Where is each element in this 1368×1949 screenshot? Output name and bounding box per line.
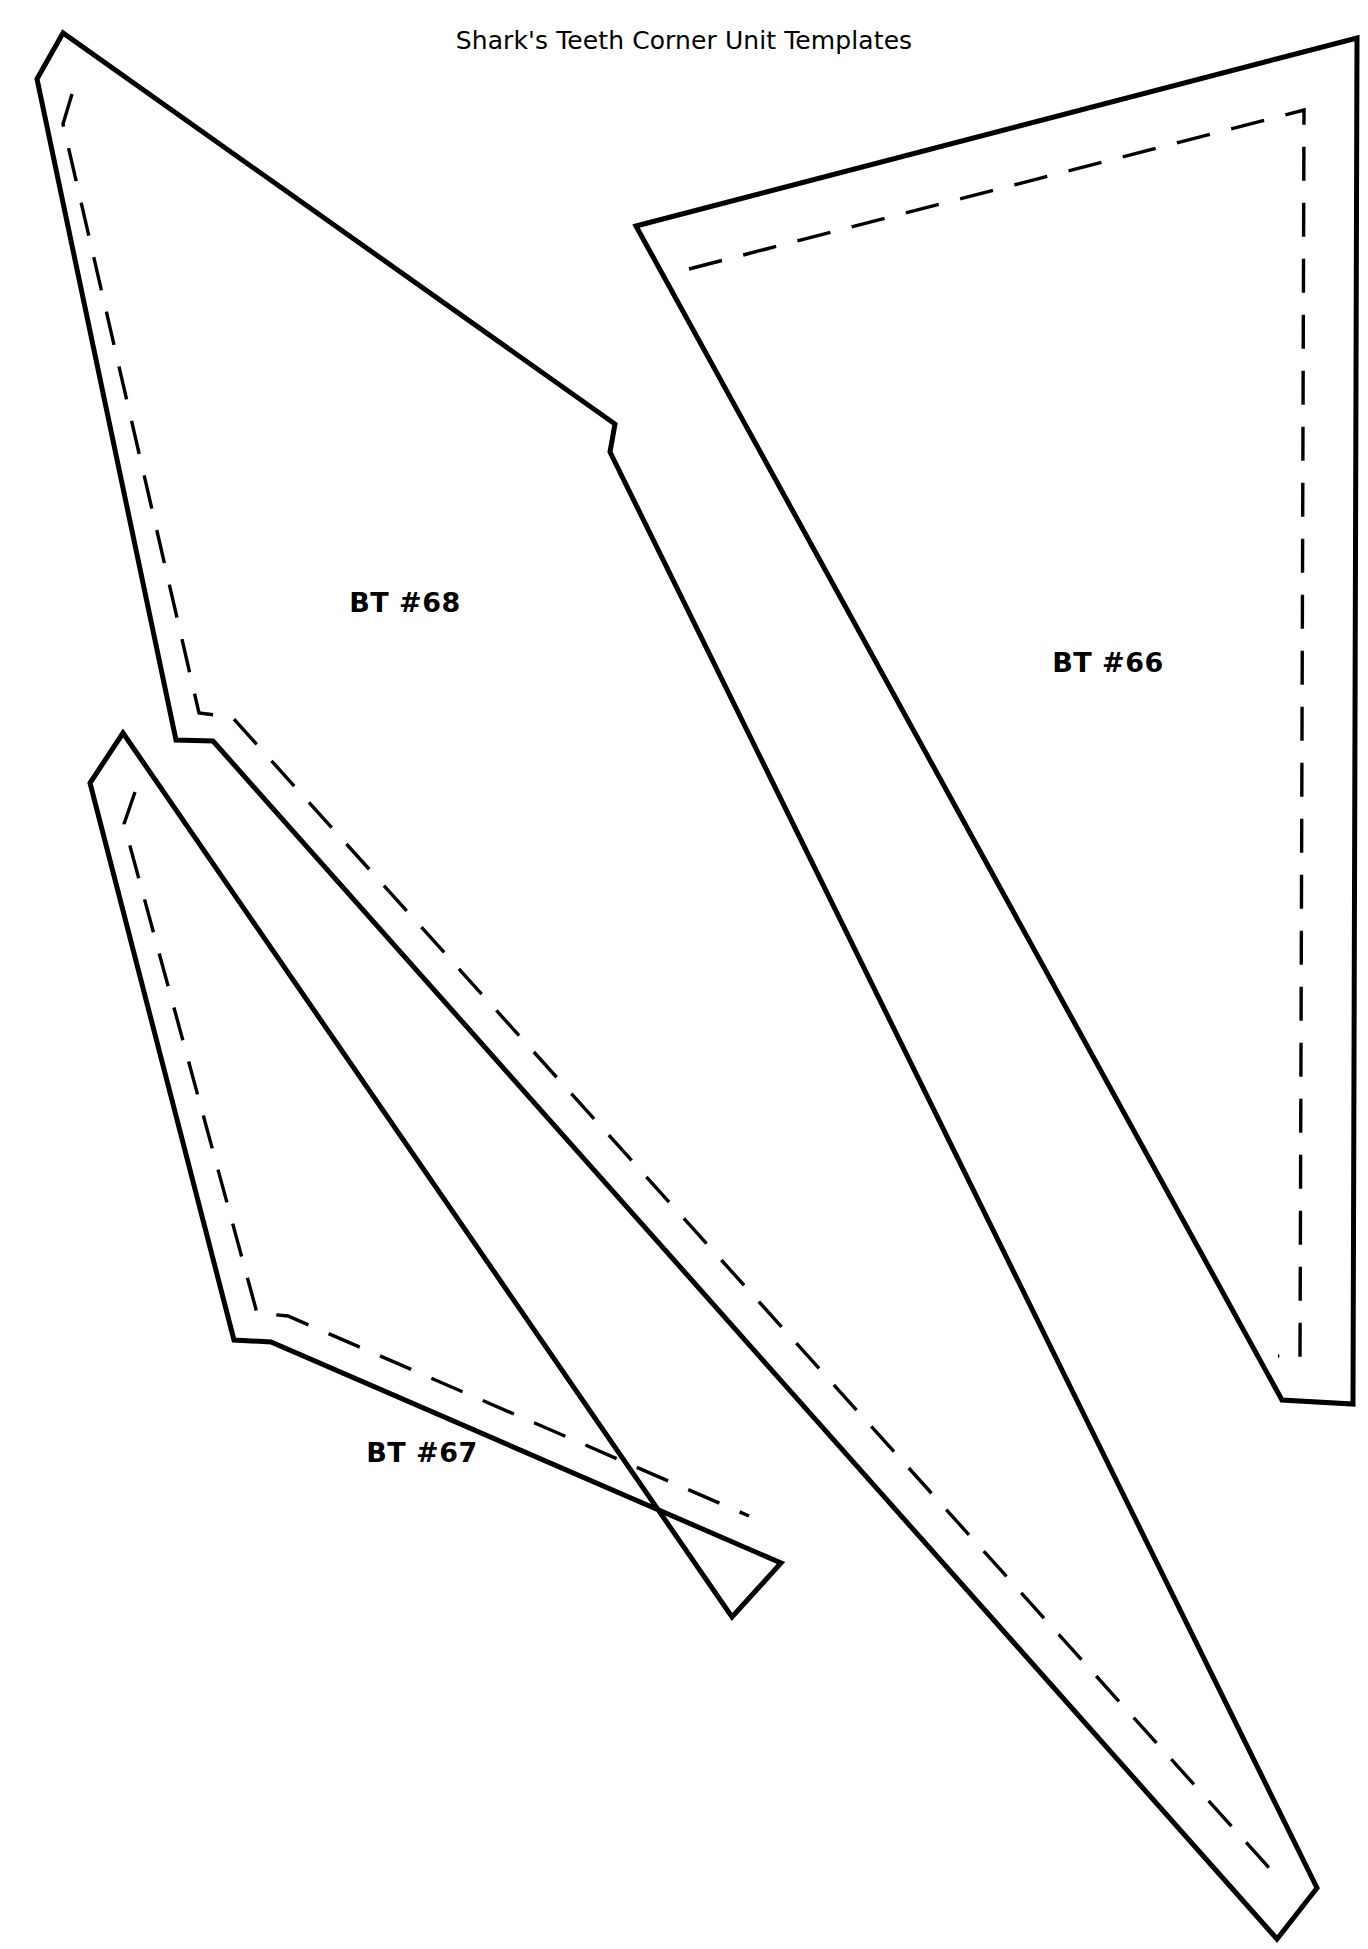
template-drawing: BT #68 BT #66 BT #67 [0, 0, 1368, 1949]
label-bt-68: BT #68 [349, 587, 461, 618]
label-bt-66: BT #66 [1052, 647, 1164, 678]
page-canvas: Shark's Teeth Corner Unit Templates BT #… [0, 0, 1368, 1949]
label-bt-67: BT #67 [366, 1437, 478, 1468]
